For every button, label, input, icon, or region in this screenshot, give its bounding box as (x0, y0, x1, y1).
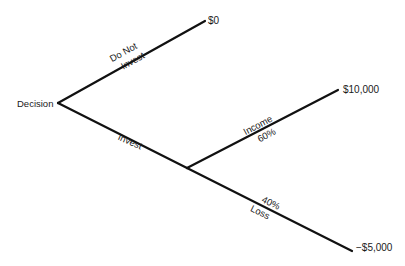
invest-label: Invest (116, 131, 144, 152)
branch-invest-label: Invest (116, 131, 144, 152)
outcome-do-not-invest: $0 (208, 15, 220, 26)
outcome-loss: −$5,000 (356, 242, 393, 253)
outcome-income: $10,000 (343, 84, 380, 95)
branch-do-not-invest-label: Do Not Invest (108, 39, 147, 74)
branch-income (187, 90, 338, 168)
decision-node-label: Decision (17, 98, 53, 109)
decision-tree-diagram: Decision Do Not Invest $0 Invest Income … (0, 0, 405, 266)
